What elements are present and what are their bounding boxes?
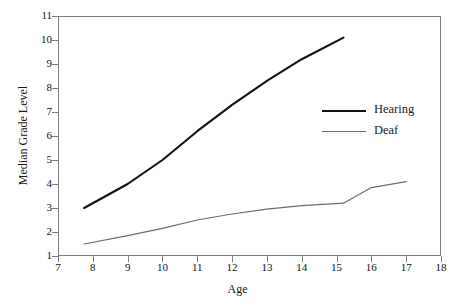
- y-tick-mark: [52, 16, 58, 17]
- series-line-hearing: [84, 38, 343, 208]
- x-tick-mark: [267, 256, 268, 262]
- x-tick-label: 12: [217, 262, 247, 273]
- y-tick-mark: [52, 184, 58, 185]
- y-axis-title: Median Grade Level: [16, 61, 31, 211]
- x-tick-mark: [128, 256, 129, 262]
- x-tick-mark: [162, 256, 163, 262]
- legend-label-deaf: Deaf: [374, 123, 398, 138]
- x-tick-label: 9: [113, 262, 143, 273]
- y-tick-mark: [52, 208, 58, 209]
- legend-swatch-hearing: [322, 110, 366, 112]
- legend-item-deaf[interactable]: Deaf: [322, 122, 440, 143]
- x-tick-label: 18: [426, 262, 456, 273]
- y-tick-mark: [52, 112, 58, 113]
- x-tick-mark: [302, 256, 303, 262]
- y-tick-mark: [52, 88, 58, 89]
- y-tick-mark: [52, 160, 58, 161]
- x-tick-label: 7: [43, 262, 73, 273]
- y-tick-label: 11: [18, 10, 52, 21]
- x-tick-label: 16: [356, 262, 386, 273]
- x-tick-label: 10: [147, 262, 177, 273]
- x-tick-label: 13: [252, 262, 282, 273]
- legend-label-hearing: Hearing: [374, 102, 414, 117]
- y-tick-mark: [52, 136, 58, 137]
- legend-item-hearing[interactable]: Hearing: [322, 101, 440, 122]
- x-tick-label: 17: [391, 262, 421, 273]
- y-tick-mark: [52, 64, 58, 65]
- x-tick-mark: [371, 256, 372, 262]
- x-tick-label: 8: [78, 262, 108, 273]
- chart-legend: Hearing Deaf: [322, 101, 440, 143]
- x-tick-mark: [197, 256, 198, 262]
- y-tick-mark: [52, 40, 58, 41]
- line-chart: 1234567891011 789101112131415161718 Medi…: [0, 0, 475, 306]
- y-tick-label: 1: [18, 250, 52, 261]
- x-tick-mark: [406, 256, 407, 262]
- x-tick-mark: [337, 256, 338, 262]
- legend-swatch-deaf: [322, 131, 366, 132]
- x-tick-mark: [232, 256, 233, 262]
- chart-title: [0, 0, 475, 5]
- x-tick-mark: [441, 256, 442, 262]
- x-tick-label: 15: [322, 262, 352, 273]
- series-line-deaf: [84, 182, 406, 244]
- x-tick-label: 11: [182, 262, 212, 273]
- y-tick-mark: [52, 232, 58, 233]
- x-tick-mark: [58, 256, 59, 262]
- x-tick-mark: [93, 256, 94, 262]
- x-axis-title: Age: [0, 282, 475, 297]
- x-tick-label: 14: [287, 262, 317, 273]
- y-tick-label: 10: [18, 34, 52, 45]
- y-tick-label: 2: [18, 226, 52, 237]
